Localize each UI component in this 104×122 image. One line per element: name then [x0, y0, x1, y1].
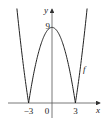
y-axis-label: y	[43, 5, 48, 15]
x-tick-label-neg3: −3	[24, 106, 34, 116]
x-tick-label-0: 0	[45, 106, 50, 116]
x-tick-label-3: 3	[73, 106, 78, 116]
y-tick-label-9: 9	[46, 21, 51, 31]
x-axis-label: x	[95, 105, 100, 115]
curve-label-f: f	[83, 64, 87, 74]
function-graph: y x f −3 0 3 9	[0, 0, 104, 122]
